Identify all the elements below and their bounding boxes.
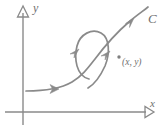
curve-point-dot bbox=[117, 55, 120, 58]
direction-arrow-icon-upper-right bbox=[126, 18, 135, 28]
y-axis-label: y bbox=[33, 2, 38, 14]
x-axis-label: x bbox=[150, 98, 155, 109]
direction-arrow-icon-loop-left bbox=[70, 49, 79, 58]
curve-name-label: C bbox=[148, 12, 157, 25]
curve-loop-path bbox=[76, 31, 109, 88]
curve-point-label: (x, y) bbox=[122, 58, 142, 68]
curve-c-group bbox=[26, 7, 148, 91]
curve-diagram-figure: y x C (x, y) bbox=[0, 0, 165, 132]
